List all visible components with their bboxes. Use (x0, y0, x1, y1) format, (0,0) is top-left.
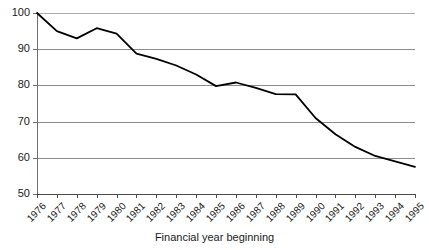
series-line-index (0, 0, 429, 250)
chart-figure: 1009080706050 19761977197819791980198119… (0, 0, 429, 250)
x-axis-title: Financial year beginning (0, 231, 429, 244)
